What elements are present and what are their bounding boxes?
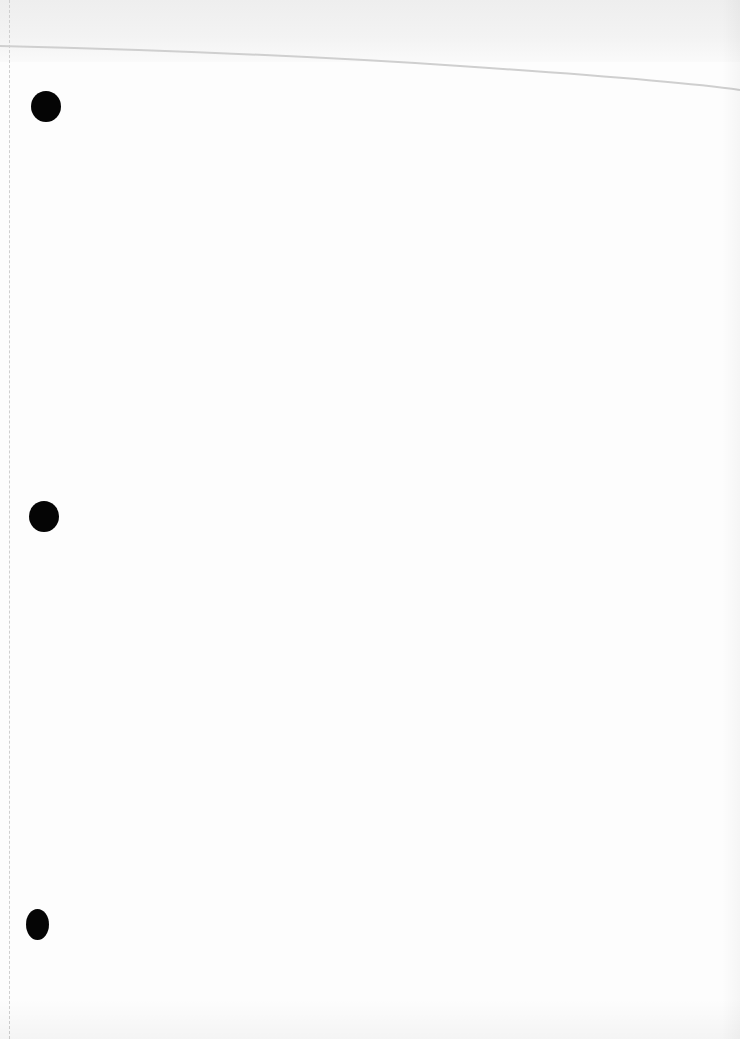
punch-hole-top: [31, 91, 61, 122]
punch-hole-bottom: [26, 909, 49, 940]
punch-hole-middle: [29, 501, 59, 532]
scan-right-shadow: [722, 0, 740, 1039]
scan-bottom-shadow: [0, 999, 740, 1039]
perforation-margin-line: [9, 0, 10, 1039]
fold-line: [0, 0, 740, 100]
